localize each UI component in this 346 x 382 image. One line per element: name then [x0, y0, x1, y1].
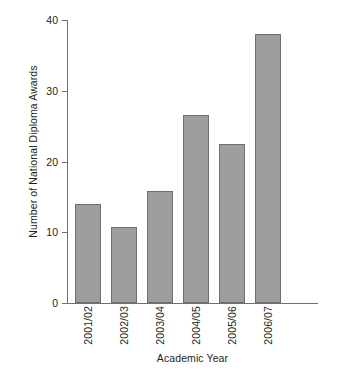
x-tick-label-text: 2002/03 [118, 306, 130, 345]
y-tick-label-10: 10 [38, 227, 58, 237]
x-tick-label-2005-06: 2005/06 [219, 304, 245, 350]
x-tick-label-2002-03: 2002/03 [111, 304, 137, 350]
bar-2004-05 [183, 115, 209, 303]
bar-chart-figure: Number of National Diploma Awards 0 10 2… [0, 0, 346, 382]
x-axis-tick-labels: 2001/02 2002/03 2003/04 2004/05 2005/06 … [67, 304, 318, 350]
y-tick-label-20: 20 [38, 157, 58, 167]
x-tick-label-2001-02: 2001/02 [75, 304, 101, 350]
x-tick-label-text: 2004/05 [190, 306, 202, 345]
y-tick-label-0: 0 [38, 298, 58, 308]
x-tick-label-text: 2006/07 [262, 306, 274, 345]
bar-2006-07 [255, 34, 281, 303]
y-tick-label-30: 30 [38, 86, 58, 96]
bar-2003-04 [147, 191, 173, 303]
y-axis-tick-labels: 0 10 20 30 40 [38, 0, 58, 382]
x-axis-title: Academic Year [67, 352, 318, 364]
plot-area [67, 20, 318, 303]
x-tick-label-2006-07: 2006/07 [255, 304, 281, 350]
bar-2001-02 [75, 204, 101, 303]
x-tick-label-2004-05: 2004/05 [183, 304, 209, 350]
x-tick-label-2003-04: 2003/04 [147, 304, 173, 350]
y-tick-label-40: 40 [38, 15, 58, 25]
x-tick-label-text: 2001/02 [82, 306, 94, 345]
x-tick-label-text: 2003/04 [154, 306, 166, 345]
bar-2002-03 [111, 227, 137, 303]
x-tick-label-text: 2005/06 [226, 306, 238, 345]
bar-2005-06 [219, 144, 245, 303]
